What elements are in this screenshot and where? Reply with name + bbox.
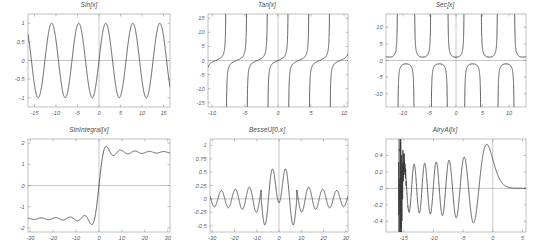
plot-grid: Sin[x] -15-10-5051015-1-0.500.51 Tan[x] …	[0, 0, 534, 250]
svg-text:0: 0	[491, 235, 495, 241]
chart-panel-sec: Sec[x] -10-50510-10-50510	[356, 0, 534, 125]
svg-text:0: 0	[97, 235, 101, 241]
svg-text:0: 0	[277, 235, 281, 241]
svg-text:5: 5	[521, 235, 525, 241]
svg-text:30: 30	[165, 235, 172, 241]
chart-canvas-sinintegral: -30-20-100102030-2-1012	[0, 125, 178, 250]
svg-text:-10: -10	[374, 91, 383, 97]
svg-text:-10: -10	[399, 110, 408, 116]
chart-panel-besselj: BesselJ[0,x] -30-20-100102030-0.5-0.2500…	[178, 125, 356, 250]
svg-text:-5: -5	[75, 110, 81, 116]
svg-text:20: 20	[319, 235, 327, 241]
svg-text:-0.25: -0.25	[194, 209, 208, 215]
svg-text:-5: -5	[378, 74, 384, 80]
svg-text:1: 1	[21, 20, 24, 26]
svg-text:10: 10	[119, 235, 126, 241]
chart-panel-sin: Sin[x] -15-10-5051015-1-0.500.51	[0, 0, 178, 125]
svg-text:5: 5	[309, 110, 313, 116]
svg-text:-0.4: -0.4	[373, 218, 383, 224]
svg-text:0.5: 0.5	[17, 39, 26, 45]
svg-text:-10: -10	[52, 110, 61, 116]
svg-text:-5: -5	[242, 110, 248, 116]
chart-canvas-tan: -10-50510-15-10-5051015	[178, 0, 356, 125]
svg-text:-10: -10	[72, 235, 81, 241]
svg-text:1: 1	[21, 161, 24, 167]
chart-canvas-sin: -15-10-5051015-1-0.500.51	[0, 0, 178, 125]
svg-text:-20: -20	[230, 235, 239, 241]
svg-text:-5: -5	[427, 110, 433, 116]
svg-text:-30: -30	[26, 235, 35, 241]
svg-text:-10: -10	[208, 110, 217, 116]
chart-canvas-airyai: -15-10-505-0.4-0.200.20.4	[356, 125, 534, 250]
svg-text:0: 0	[379, 185, 383, 191]
svg-text:0.4: 0.4	[375, 152, 383, 158]
svg-text:0: 0	[97, 110, 101, 116]
svg-text:15: 15	[198, 15, 205, 21]
svg-text:10: 10	[298, 235, 305, 241]
svg-text:0.25: 0.25	[196, 183, 208, 189]
svg-text:0: 0	[454, 110, 458, 116]
svg-text:-0.5: -0.5	[197, 223, 208, 229]
svg-text:-10: -10	[429, 235, 438, 241]
svg-text:-10: -10	[196, 86, 205, 92]
chart-panel-sinintegral: SinIntegral[x] -30-20-100102030-2-1012	[0, 125, 178, 250]
svg-text:20: 20	[141, 235, 149, 241]
svg-text:10: 10	[341, 110, 348, 116]
svg-text:-15: -15	[30, 110, 39, 116]
svg-text:-15: -15	[196, 100, 205, 106]
chart-panel-tan: Tan[x] -10-50510-15-10-5051015	[178, 0, 356, 125]
svg-text:-10: -10	[253, 235, 262, 241]
svg-text:0: 0	[21, 58, 25, 64]
svg-text:-0.5: -0.5	[15, 76, 26, 82]
svg-text:10: 10	[376, 24, 383, 30]
svg-text:30: 30	[343, 235, 350, 241]
chart-canvas-sec: -10-50510-10-50510	[356, 0, 534, 125]
svg-text:10: 10	[139, 110, 146, 116]
svg-text:5: 5	[201, 43, 205, 49]
svg-text:-1: -1	[20, 204, 25, 210]
chart-panel-airyai: AiryAi[x] -15-10-505-0.4-0.200.20.4	[356, 125, 534, 250]
svg-text:0: 0	[203, 196, 207, 202]
svg-text:0: 0	[201, 58, 205, 64]
svg-text:0: 0	[379, 58, 383, 64]
svg-text:-5: -5	[461, 235, 467, 241]
svg-text:0.5: 0.5	[199, 169, 208, 175]
svg-text:1: 1	[203, 142, 206, 148]
svg-text:-5: -5	[200, 72, 206, 78]
svg-text:0.2: 0.2	[375, 169, 384, 175]
svg-text:10: 10	[506, 110, 513, 116]
svg-text:10: 10	[198, 29, 205, 35]
svg-text:-2: -2	[20, 225, 26, 231]
svg-text:5: 5	[481, 110, 485, 116]
svg-text:0: 0	[276, 110, 280, 116]
svg-text:-1: -1	[20, 95, 25, 101]
svg-text:-0.2: -0.2	[373, 202, 384, 208]
svg-text:2: 2	[20, 140, 25, 146]
svg-text:0: 0	[21, 183, 25, 189]
chart-canvas-besselj: -30-20-100102030-0.5-0.2500.250.50.751	[178, 125, 356, 250]
svg-text:5: 5	[379, 41, 383, 47]
svg-text:-30: -30	[208, 235, 217, 241]
svg-text:-15: -15	[400, 235, 409, 241]
svg-text:0.75: 0.75	[196, 156, 208, 162]
svg-text:5: 5	[119, 110, 123, 116]
svg-text:15: 15	[160, 110, 167, 116]
svg-text:-20: -20	[49, 235, 58, 241]
